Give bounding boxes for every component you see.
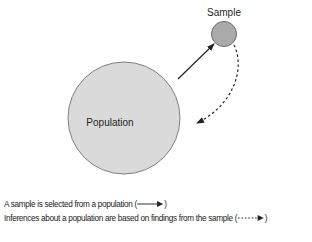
solid-arrow-icon: [137, 200, 165, 208]
selection-arrow: [178, 44, 214, 79]
legend-selection-text: A sample is selected from a population (: [4, 198, 137, 209]
sample-label: Sample: [207, 7, 241, 18]
legend-inference-close: ): [265, 212, 267, 223]
legend-inference: Inferences about a population are based …: [4, 212, 267, 223]
population-label: Population: [86, 117, 133, 128]
inference-arrow: [197, 45, 238, 123]
dashed-arrow-icon: [237, 214, 265, 222]
legend-selection: A sample is selected from a population (…: [4, 198, 167, 209]
sample-circle: [212, 22, 237, 47]
legend-inference-text: Inferences about a population are based …: [4, 212, 237, 223]
legend-selection-close: ): [164, 198, 166, 209]
